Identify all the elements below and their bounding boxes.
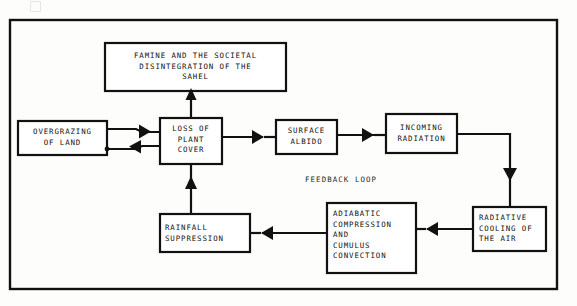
edge-albido-to-radiation bbox=[337, 128, 386, 142]
node-box-incoming-radiation[interactable] bbox=[386, 114, 457, 153]
edge-rainfall-to-loss bbox=[185, 164, 197, 214]
edge-loss-to-albido bbox=[222, 130, 276, 144]
edge-adiabatic-to-rainfall bbox=[250, 226, 327, 240]
node-box-loss-of-plant-cover[interactable] bbox=[160, 118, 222, 164]
node-box-radiative-cooling[interactable] bbox=[473, 207, 546, 251]
feedback-loop-annotation: FEEDBACK LOOP bbox=[305, 175, 377, 184]
node-box-rainfall-suppression[interactable] bbox=[160, 214, 250, 252]
edge-cooling-to-adiabatic bbox=[416, 222, 473, 236]
diagram-canvas: FAMINE AND THE SOCIETAL DISINTEGRATION O… bbox=[0, 0, 577, 306]
node-box-surface-albido[interactable] bbox=[276, 120, 337, 154]
edge-overgrazing-to-loss bbox=[107, 125, 160, 139]
edge-loss-to-famine bbox=[186, 88, 197, 118]
node-box-famine[interactable] bbox=[105, 43, 286, 91]
edge-radiation-to-cooling bbox=[457, 134, 517, 207]
flowchart-graphics bbox=[0, 0, 577, 306]
node-box-adiabatic[interactable] bbox=[327, 203, 416, 273]
node-box-overgrazing[interactable] bbox=[18, 121, 107, 155]
edge-loss-to-overgrazing bbox=[105, 140, 160, 154]
